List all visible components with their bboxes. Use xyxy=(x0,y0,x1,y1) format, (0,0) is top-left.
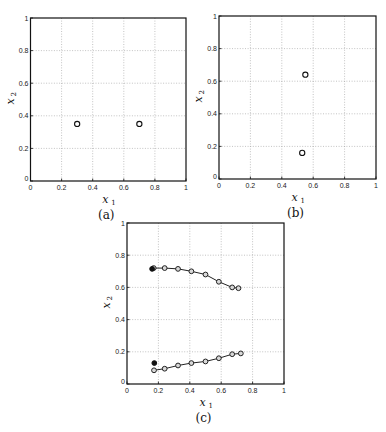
data-point xyxy=(303,72,308,77)
x-tick-label: 0.2 xyxy=(246,182,256,189)
subplot-b: 00.20.40.60.8100.20.40.60.81x1x2(b) xyxy=(192,13,378,221)
data-point xyxy=(75,121,80,126)
y-tick-label: 0.4 xyxy=(207,110,217,117)
x-axis-label-subscript: 1 xyxy=(111,199,115,207)
y-axis-label: x xyxy=(100,302,113,309)
subplot-caption: (c) xyxy=(195,411,211,425)
x-tick-label: 0.6 xyxy=(119,184,129,191)
y-tick-label: 0.4 xyxy=(19,112,29,119)
data-point xyxy=(238,351,243,356)
data-point xyxy=(176,266,181,271)
data-point xyxy=(176,363,181,368)
figure: 00.20.40.60.8100.20.40.60.81x1x2(a)00.20… xyxy=(0,0,386,432)
y-tick-label: 0.6 xyxy=(115,284,125,291)
x-tick-label: 0.6 xyxy=(216,387,226,394)
y-tick-label: 0.2 xyxy=(19,145,29,152)
x-tick-label: 1 xyxy=(374,182,378,189)
y-tick-label: 0 xyxy=(121,378,125,385)
x-axis-label-subscript: 1 xyxy=(209,402,213,410)
y-tick-label: 0.8 xyxy=(207,45,217,52)
subplot-caption: (b) xyxy=(287,206,304,220)
x-tick-label: 0.4 xyxy=(88,184,98,191)
y-tick-label: 0.6 xyxy=(19,80,29,87)
x-tick-label: 0 xyxy=(29,184,33,191)
series-line xyxy=(154,268,239,288)
x-tick-label: 0.4 xyxy=(277,182,287,189)
x-tick-label: 0.2 xyxy=(154,387,164,394)
data-point xyxy=(150,266,155,271)
plot-frame xyxy=(31,18,187,181)
y-axis-label-group: x2 xyxy=(4,92,18,105)
y-axis-label-group: x2 xyxy=(192,90,206,103)
data-point xyxy=(203,272,208,277)
x-tick-label: 0.8 xyxy=(150,184,160,191)
data-point xyxy=(216,279,221,284)
subplot-c: 00.20.40.60.8100.20.40.60.81x1x2(c) xyxy=(100,220,286,426)
data-point xyxy=(300,150,305,155)
y-axis-label: x xyxy=(4,98,17,105)
series-upper-trajectory xyxy=(151,266,241,291)
plot-frame xyxy=(219,16,376,179)
x-tick-label: 0.8 xyxy=(248,387,258,394)
y-tick-label: 0.4 xyxy=(115,316,125,323)
data-point xyxy=(230,285,235,290)
data-point xyxy=(216,356,221,361)
y-tick-label: 0.8 xyxy=(19,47,29,54)
data-point xyxy=(189,269,194,274)
series-lower-trajectory xyxy=(152,351,244,373)
y-tick-label: 0.6 xyxy=(207,78,217,85)
y-tick-label: 1 xyxy=(213,13,217,20)
y-axis-label-group: x2 xyxy=(100,296,114,309)
x-tick-label: 0.2 xyxy=(57,184,67,191)
y-axis-label-subscript: 2 xyxy=(198,90,206,94)
y-tick-label: 0.2 xyxy=(207,143,217,150)
subplot-a: 00.20.40.60.8100.20.40.60.81x1x2(a) xyxy=(4,15,189,223)
data-point xyxy=(162,366,167,371)
x-tick-label: 1 xyxy=(184,184,188,191)
data-point xyxy=(203,359,208,364)
y-tick-label: 0.2 xyxy=(115,348,125,355)
x-tick-label: 0 xyxy=(125,387,129,394)
x-tick-label: 0.4 xyxy=(185,387,195,394)
series-points xyxy=(75,121,142,126)
y-axis-label-subscript: 2 xyxy=(10,92,18,96)
series-points xyxy=(300,72,308,155)
x-axis-label: x xyxy=(199,396,206,409)
y-tick-label: 1 xyxy=(25,15,29,22)
x-axis-label: x xyxy=(102,193,109,206)
x-tick-label: 0 xyxy=(217,182,221,189)
y-axis-label-subscript: 2 xyxy=(106,296,114,300)
x-tick-label: 0.6 xyxy=(308,182,318,189)
x-axis-label-subscript: 1 xyxy=(301,197,305,205)
data-point xyxy=(230,352,235,357)
data-point xyxy=(137,121,142,126)
data-point xyxy=(236,286,241,291)
y-tick-label: 0.8 xyxy=(115,252,125,259)
data-point xyxy=(152,361,157,366)
data-point xyxy=(189,361,194,366)
y-tick-label: 1 xyxy=(121,220,125,227)
y-tick-label: 0 xyxy=(213,173,217,180)
series-upper-start xyxy=(150,266,155,271)
y-axis-label: x xyxy=(192,96,205,103)
x-axis-label: x xyxy=(291,191,298,204)
subplot-caption: (a) xyxy=(98,208,115,222)
x-tick-label: 1 xyxy=(282,387,286,394)
data-point xyxy=(162,266,167,271)
y-tick-label: 0 xyxy=(25,175,29,182)
data-point xyxy=(152,368,157,373)
x-tick-label: 0.8 xyxy=(340,182,350,189)
series-lower-start xyxy=(152,361,157,366)
